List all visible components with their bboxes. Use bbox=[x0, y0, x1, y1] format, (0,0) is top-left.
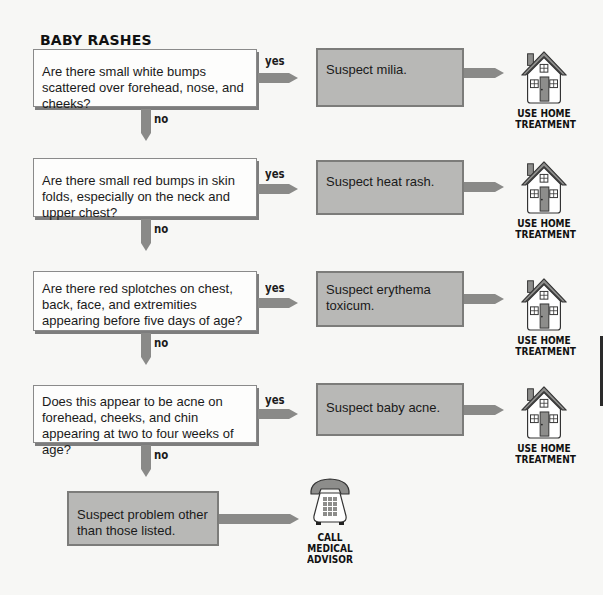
result-text: Suspect erythema toxicum. bbox=[326, 282, 431, 313]
chart-title: BABY RASHES bbox=[40, 32, 152, 48]
action-use-home-treatment-3: USE HOME TREATMENT bbox=[509, 275, 579, 357]
question-box-2: Are there small red bumps in skin folds,… bbox=[33, 158, 257, 217]
action-label-line2: TREATMENT bbox=[515, 119, 572, 130]
no-label: no bbox=[154, 448, 168, 462]
action-label-line2: TREATMENT bbox=[515, 346, 572, 357]
yes-label: yes bbox=[265, 281, 285, 295]
action-call-medical-advisor: CALL MEDICAL ADVISOR bbox=[297, 476, 363, 565]
no-arrow-icon bbox=[140, 109, 152, 141]
action-label-line3: ADVISOR bbox=[303, 554, 357, 565]
result-box-2: Suspect heat rash. bbox=[316, 160, 464, 215]
question-box-3: Are there red splotches on chest, back, … bbox=[33, 271, 257, 331]
house-icon bbox=[519, 48, 569, 104]
question-text: Are there small red bumps in skin folds,… bbox=[42, 173, 235, 220]
action-label-line2: TREATMENT bbox=[515, 229, 572, 240]
question-text: Are there small white bumps scattered ov… bbox=[42, 64, 244, 111]
right-arrow-icon bbox=[464, 292, 504, 306]
no-label: no bbox=[154, 222, 168, 236]
no-arrow-icon bbox=[140, 445, 152, 477]
house-icon bbox=[519, 158, 569, 214]
telephone-icon bbox=[308, 476, 352, 528]
house-icon bbox=[519, 383, 569, 439]
result-text: Suspect milia. bbox=[326, 62, 407, 77]
no-arrow-icon bbox=[140, 333, 152, 365]
question-text: Are there red splotches on chest, back, … bbox=[42, 281, 242, 328]
result-text: Suspect heat rash. bbox=[326, 174, 434, 189]
yes-label: yes bbox=[265, 54, 285, 68]
right-arrow-icon bbox=[464, 66, 504, 80]
yes-arrow-icon bbox=[258, 182, 298, 196]
question-text: Does this appear to be acne on forehead,… bbox=[42, 394, 234, 457]
result-box-3: Suspect erythema toxicum. bbox=[316, 271, 464, 327]
action-use-home-treatment-4: USE HOME TREATMENT bbox=[509, 383, 579, 465]
no-arrow-icon bbox=[140, 219, 152, 251]
result-box-1: Suspect milia. bbox=[316, 48, 464, 107]
result-text: Suspect problem other than those listed. bbox=[77, 507, 208, 538]
action-use-home-treatment-2: USE HOME TREATMENT bbox=[509, 158, 579, 240]
yes-label: yes bbox=[265, 393, 285, 407]
question-box-1: Are there small white bumps scattered ov… bbox=[33, 49, 257, 107]
action-use-home-treatment-1: USE HOME TREATMENT bbox=[509, 48, 579, 130]
right-arrow-icon bbox=[464, 403, 504, 417]
result-box-4: Suspect baby acne. bbox=[316, 383, 464, 436]
no-label: no bbox=[154, 336, 168, 350]
question-box-4: Does this appear to be acne on forehead,… bbox=[33, 385, 257, 443]
yes-arrow-icon bbox=[258, 71, 298, 85]
yes-arrow-icon bbox=[258, 296, 298, 310]
no-label: no bbox=[154, 112, 168, 126]
yes-label: yes bbox=[265, 167, 285, 181]
result-box-other: Suspect problem other than those listed. bbox=[67, 491, 219, 546]
right-arrow-icon bbox=[219, 512, 299, 526]
result-text: Suspect baby acne. bbox=[326, 400, 440, 415]
yes-arrow-icon bbox=[258, 407, 298, 421]
right-arrow-icon bbox=[464, 180, 504, 194]
action-label-line2: TREATMENT bbox=[515, 454, 572, 465]
house-icon bbox=[519, 275, 569, 331]
